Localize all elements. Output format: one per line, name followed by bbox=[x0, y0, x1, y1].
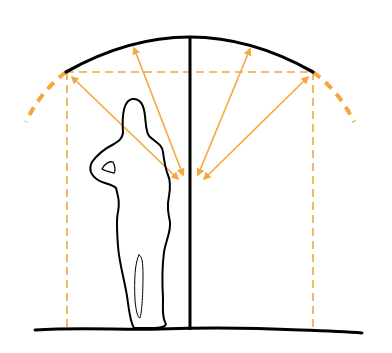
figure-leg-gap bbox=[135, 255, 143, 318]
arrow-right-outer bbox=[204, 77, 308, 179]
canopy-diagram bbox=[0, 0, 392, 353]
dashed-arc-right bbox=[313, 72, 354, 122]
arrow-left-inner bbox=[134, 48, 183, 175]
ground-line bbox=[35, 328, 362, 333]
arrow-left-outer bbox=[72, 77, 178, 179]
dashed-arc-left bbox=[26, 72, 66, 122]
arrow-right-inner bbox=[198, 49, 250, 175]
figure-arm-gap bbox=[102, 162, 115, 173]
